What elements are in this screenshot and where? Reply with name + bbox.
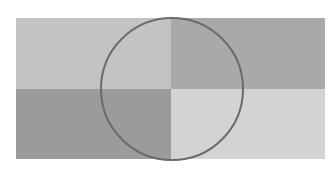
quadrant-circle-diagram <box>0 0 333 170</box>
quadrant-bottom-right <box>171 89 325 159</box>
quadrant-top-left <box>16 18 171 89</box>
diagram-canvas <box>0 0 333 170</box>
quadrant-bottom-left <box>16 89 171 159</box>
quadrant-top-right <box>171 18 325 89</box>
